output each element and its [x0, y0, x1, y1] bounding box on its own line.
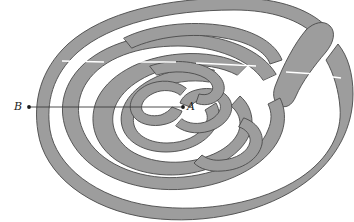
point-dot-b: [27, 105, 31, 109]
labyrinth-svg: [0, 0, 354, 222]
labyrinth-figure: A B: [0, 0, 354, 222]
maze-tail-hook: [274, 23, 334, 107]
point-label-b: B: [14, 101, 22, 112]
point-label-a: A: [187, 101, 195, 112]
point-dot-a: [181, 105, 185, 109]
gap-mark-1: [62, 61, 104, 62]
